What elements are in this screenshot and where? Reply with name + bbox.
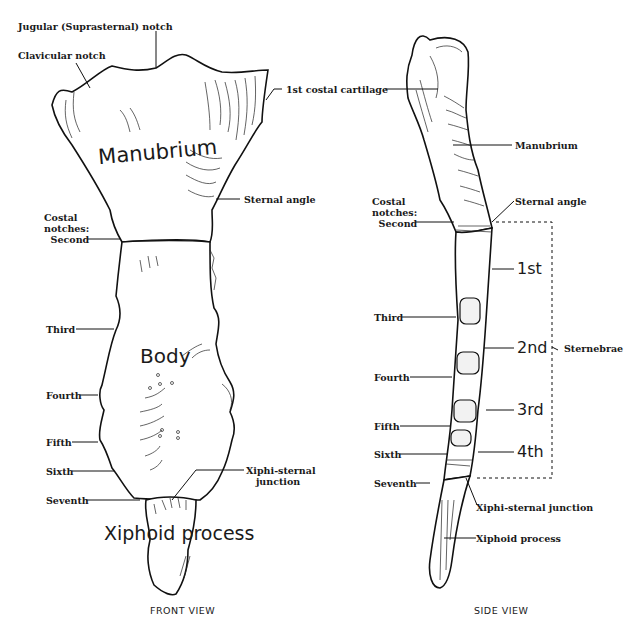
region-body: Body xyxy=(140,344,191,368)
label-front-sternal-angle: Sternal angle xyxy=(244,194,316,205)
label-side-third: Third xyxy=(374,312,403,323)
label-front-fourth: Fourth xyxy=(46,390,82,401)
label-side-fourth: Fourth xyxy=(374,372,410,383)
sternebra-1st: 1st xyxy=(517,259,542,278)
label-side-xiphoid-process: Xiphoid process xyxy=(476,533,561,544)
sternebra-2nd: 2nd xyxy=(517,338,547,357)
label-front-sixth: Sixth xyxy=(46,466,73,477)
caption-side-view: SIDE VIEW xyxy=(474,605,528,616)
label-side-seventh: Seventh xyxy=(374,478,417,489)
label-front-costal-notches: Costal notches: Second xyxy=(44,212,89,245)
label-clavicular-notch: Clavicular notch xyxy=(18,50,106,61)
label-front-seventh: Seventh xyxy=(46,495,89,506)
region-xiphoid: Xiphoid process xyxy=(104,522,254,544)
front-view-drawing xyxy=(52,54,268,594)
side-xiphoid-shape xyxy=(429,476,470,588)
label-sternebrae: Sternebrae xyxy=(564,343,623,354)
label-side-fifth: Fifth xyxy=(374,421,400,432)
label-front-xiphisternal-junction: Xiphi-sternal junction xyxy=(246,465,316,487)
front-xiphoid-shape xyxy=(146,497,196,595)
label-side-sternal-angle: Sternal angle xyxy=(515,196,587,207)
front-body-shape xyxy=(99,241,234,501)
side-manubrium-shape xyxy=(407,36,492,233)
caption-front-view: FRONT VIEW xyxy=(150,605,215,616)
label-side-manubrium: Manubrium xyxy=(515,140,578,151)
label-front-fifth: Fifth xyxy=(46,437,72,448)
sternebra-3rd: 3rd xyxy=(517,400,544,419)
label-side-xiphisternal-junction: Xiphi-sternal junction xyxy=(476,502,593,513)
label-jugular-notch: Jugular (Suprasternal) notch xyxy=(18,21,173,32)
sternebra-4th: 4th xyxy=(517,442,544,461)
label-first-costal-cartilage: 1st costal cartilage xyxy=(286,84,388,95)
label-front-third: Third xyxy=(46,324,75,335)
label-side-costal-notches: Costal notches: Second xyxy=(372,196,417,229)
label-side-sixth: Sixth xyxy=(374,449,401,460)
